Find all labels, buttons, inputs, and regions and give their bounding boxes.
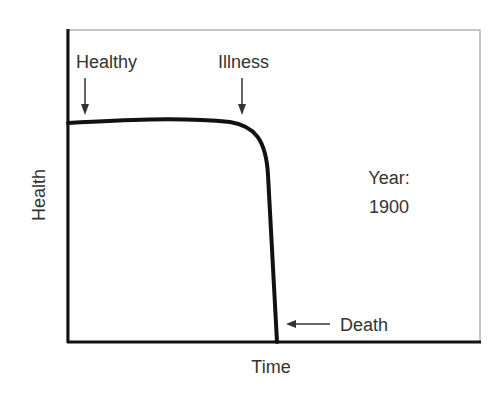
y-axis-title: Health <box>29 169 49 221</box>
year-value: 1900 <box>369 197 409 217</box>
death-label: Death <box>340 315 388 335</box>
health-curve <box>68 119 277 342</box>
health-chart: Healthy Illness Year: 1900 Death Time He… <box>0 0 493 397</box>
year-label: Year: <box>368 168 409 188</box>
illness-label: Illness <box>218 52 269 72</box>
death-arrow-icon <box>286 320 330 328</box>
healthy-arrow-icon <box>81 78 89 115</box>
illness-arrow-icon <box>238 78 246 115</box>
x-axis-title: Time <box>251 357 290 377</box>
healthy-label: Healthy <box>76 52 137 72</box>
